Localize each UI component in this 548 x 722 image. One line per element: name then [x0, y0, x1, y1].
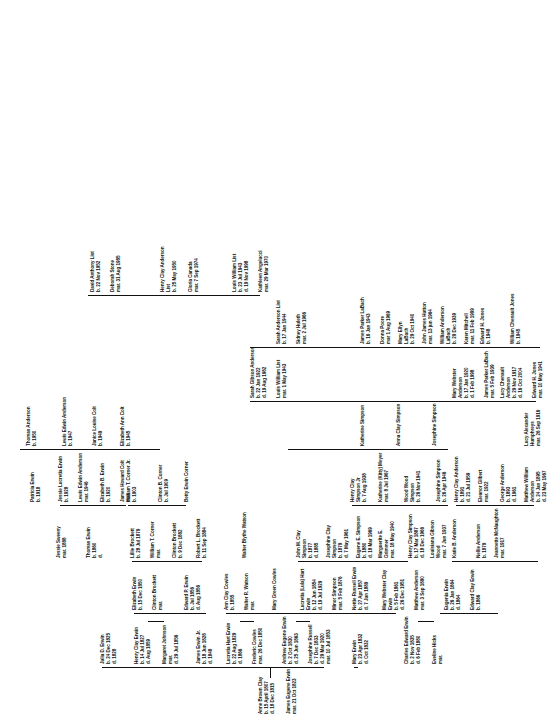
node-james-howard-colt-spouse: James Howard Colt mar. [120, 460, 132, 502]
person-name: Edward P. Erwin [184, 575, 190, 610]
node-john-james-hutton-spouse: John James Hutton mar. 13 jun 1964 [422, 302, 434, 344]
node-mary-webster-anderson: Mary Webster Anderson b. 17 Jan 1920 d. … [452, 368, 476, 398]
person-marriage: mar. 26 Dec 1850 [258, 628, 264, 664]
person-death: d. Aug 1859 [146, 627, 152, 664]
person-name: Sidney Huleth [296, 312, 302, 344]
node-deborah-stone-spouse: Deborah Stone mar. 31 Aug 1985 [110, 255, 122, 292]
connector-tick [400, 347, 404, 348]
person-name: Elizabeth Erwin [132, 577, 138, 610]
connector-tick [512, 347, 516, 348]
node-root-mother: Anne Brown Clay b. 15 April 1807 d. 18 D… [258, 677, 276, 714]
node-george-anderson: George Anderson b. 1893 d. 1961 [500, 464, 518, 502]
person-name: Josephine Clay [326, 525, 332, 558]
person-name: Katherine Simpson [360, 405, 366, 446]
connector-tick [102, 667, 106, 668]
person-surname: Simpson Jr [356, 473, 362, 502]
node-edward-p-erwin: Edward P. Erwin b. Jul 1856 d. Aug 1856 [184, 575, 202, 610]
person-death: d. 18 Mar 1969 [368, 516, 374, 558]
person-name: Louisiana Gibson [430, 520, 436, 558]
person-name: Lucy Alexander [524, 410, 530, 446]
person-birth: b. 9 Dec 1882 [178, 523, 184, 558]
node-sarah-anderson-list: Sarah Anderson List b. 17 Jan 1944 [276, 300, 288, 344]
connector-tick [438, 505, 442, 506]
person-name: Sarah Anderson List [276, 300, 282, 344]
person-death: d. 1 Feb 1998 [470, 368, 476, 398]
person-birth: b. 15 Dec 1850 [138, 577, 144, 610]
node-wood-wood-simpson: Wood Wood Simpson b. 26 Nov 1941 [404, 471, 422, 502]
person-name: James Parker LaBach [484, 351, 490, 398]
person-death: d. 25 Jun 1863 [294, 616, 300, 664]
person-death: d. 23 May 1967 [542, 467, 548, 502]
person-birth: b. 1866 [476, 569, 482, 610]
person-marriage: mar. [156, 522, 162, 558]
node-mary-green-cowles: Mary Green Cowles [272, 568, 278, 610]
person-marriage: mar. [250, 573, 256, 610]
person-name: John M. Clay [296, 530, 302, 558]
person-death: d. 1828 [112, 633, 118, 664]
person-marriage: mar. 10 Jul 1853 [326, 625, 332, 665]
node-william-chenault-jones: William Chenault Jones b. 1945 [510, 294, 522, 344]
person-name: Donna Poore [380, 311, 386, 344]
person-birth: b. 26 Nov 1941 [416, 471, 422, 502]
connector-g6-spine-anderson2 [20, 449, 56, 450]
person-death: d. 1866 [238, 623, 244, 664]
connector-tick [302, 613, 306, 614]
connector-g3-spine-charles [440, 613, 498, 614]
node-sidney-huleth-spouse: Sidney Huleth mar. 2 Jul 1966 [296, 312, 308, 344]
person-name: Deborah Stone [110, 255, 116, 292]
person-marriage: mar. 26 Sep 1916 [536, 410, 542, 446]
person-name: Eveline Hicks [432, 635, 438, 664]
person-marriage: mar. [438, 635, 444, 664]
connector-tick [174, 561, 178, 562]
node-louisiana-gibson-wood-spouse: Louisiana Gibson Wood mar. 7 Jun 1937 [430, 520, 448, 558]
person-death: d. 29 Jul 1856 [174, 625, 180, 664]
person-death: d. 16 Oct 2004 [518, 367, 524, 398]
person-birth: b. 15 April 1807 [264, 677, 270, 714]
person-marriage: mar. 7 Sep 1974 [194, 258, 200, 292]
connector-tick [64, 449, 68, 450]
person-marriage: mar. 10 May 1941 [538, 361, 544, 398]
person-name: Frederic Cowles [252, 628, 258, 664]
connector-tick [160, 505, 164, 506]
connector-marriage-bracket [418, 621, 434, 622]
person-birth: b. 1945 [516, 294, 522, 344]
person-name: Sarah Gibson Anderson [250, 347, 256, 398]
person-marriage: mar. [126, 460, 132, 502]
person-birth: b. 17 Jan 1944 [282, 300, 288, 344]
person-name: William Anderson [440, 306, 446, 344]
node-nettie-russell-erwin: Nettie Russell Erwin b. 27 Apr 1857 d. 7… [352, 567, 370, 610]
person-marriage: mar. 2 Jul 1966 [302, 312, 308, 344]
node-karen-mitchell-spouse: Karen Mitchell mar. 11 Feb 1999 [464, 308, 476, 344]
node-william-t-corner-spouse: William T. Corner mar. [150, 522, 162, 558]
connector-tick [298, 561, 302, 562]
connector-g3-spine-andrew [284, 613, 396, 614]
node-jessie-lucretia-erwin: Jessie Lucretia Erwin b. 1928 [58, 456, 70, 502]
person-marriage: mar. 29 Mar 1970 [264, 250, 270, 292]
person-marriage: mar. 8 Jul 1967 [384, 453, 390, 502]
node-andrew-eugene-erwin: Andrew Eugene Erwin b. 2 Oct 1830 d. 25 … [282, 616, 300, 664]
node-mary-ellyn-labach: Mary Ellyn LaBach b. 29 Oct 1940 [398, 314, 416, 344]
person-name: Robert L. Brockett [196, 519, 202, 558]
node-ann-clay-cowles: Ann Clay Cowles b. 1855 [224, 573, 236, 610]
node-lucretia-hart-erwin: Lucretia Hart Erwin b. 22 Aug 1829 d. 18… [226, 623, 244, 664]
person-marriage: mar. 31 Aug 1985 [116, 255, 122, 292]
connector-tick [442, 347, 446, 348]
node-eugene-e-simpson: Eugene E. Simpson b. 1880 d. 18 Mar 1969 [356, 516, 374, 558]
node-donna-poore-spouse: Donna Poore mar 1 Aug 1969 [380, 311, 392, 344]
node-lucy-alexander-humphreys-spouse: Lucy Alexander Humphreys mar. 26 Sep 191… [524, 410, 542, 446]
person-name: John James Hutton [422, 302, 428, 344]
node-josephine-simpson: Josephine Simpson b. 26 Apr 1946 [436, 459, 448, 502]
person-name: Thomas Anderson [26, 407, 32, 446]
connector-tick [502, 401, 506, 402]
connector-marriage-bracket [148, 621, 164, 622]
person-name: Henry Clay Anderson [160, 246, 166, 292]
person-name: Anne Brown Clay [258, 677, 264, 714]
node-louis-william-list-child: Louis William List b. 23 Jul 1943 d. 19 … [232, 254, 250, 292]
person-name: Elizabeth B. Erwin [100, 463, 106, 502]
person-name: William T. Corner [150, 522, 156, 558]
person-death: d. 21 Jul 1959 [466, 456, 472, 502]
person-birth: b. 1855 [230, 573, 236, 610]
person-name: Wood Wood [404, 471, 410, 502]
node-charles-edward-erwin: Charles Edward Erwin b. 2 Nov 1835 d. 6 … [404, 616, 422, 664]
person-name: Louis William List [232, 254, 238, 292]
